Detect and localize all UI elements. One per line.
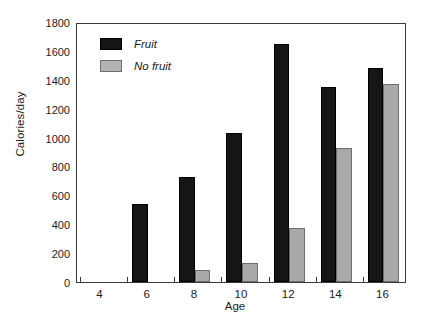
legend-label: No fruit: [134, 60, 171, 72]
x-tick-label-10: 10: [221, 288, 261, 300]
bar-fruit-age-6: [132, 204, 148, 282]
black-swatch: [100, 38, 122, 50]
y-tick-label-1600: 1600: [30, 46, 70, 58]
x-tick-mark-6: [127, 277, 128, 283]
y-tick-label-600: 600: [30, 190, 70, 202]
bar-fruit-age-10: [226, 133, 242, 282]
x-tick-label-4: 4: [80, 288, 120, 300]
y-axis-title: Calories/day: [14, 74, 26, 174]
x-tick-label-6: 6: [127, 288, 167, 300]
bar-no-fruit-age-14: [336, 148, 352, 282]
x-tick-mark-16: [363, 277, 364, 283]
y-tick-label-1200: 1200: [30, 104, 70, 116]
bar-chart-figure: Calories/day Age 02004006008001000120014…: [0, 0, 424, 323]
bar-fruit-age-8: [179, 177, 195, 282]
x-tick-label-8: 8: [174, 288, 214, 300]
gray-swatch: [100, 60, 122, 72]
y-tick-label-1800: 1800: [30, 17, 70, 29]
legend-item-no-fruit: No fruit: [100, 60, 230, 72]
chart-legend: FruitNo fruit: [100, 38, 230, 82]
x-tick-mark-10: [221, 277, 222, 283]
y-tick-label-400: 400: [30, 219, 70, 231]
y-tick-label-800: 800: [30, 161, 70, 173]
x-tick-mark-14: [316, 277, 317, 283]
bar-no-fruit-age-12: [289, 228, 305, 282]
bar-no-fruit-age-16: [383, 84, 399, 282]
x-tick-mark-12: [269, 277, 270, 283]
y-tick-label-0: 0: [30, 277, 70, 289]
y-tick-label-1400: 1400: [30, 75, 70, 87]
y-tick-label-1000: 1000: [30, 133, 70, 145]
y-tick-label-200: 200: [30, 248, 70, 260]
legend-item-fruit: Fruit: [100, 38, 230, 50]
bar-fruit-age-16: [368, 68, 384, 282]
x-tick-mark-4: [80, 277, 81, 283]
x-tick-mark-8: [174, 277, 175, 283]
bar-fruit-age-12: [274, 44, 290, 282]
bar-fruit-age-14: [321, 87, 337, 282]
legend-label: Fruit: [134, 38, 157, 50]
x-tick-label-14: 14: [315, 288, 355, 300]
x-tick-label-16: 16: [362, 288, 402, 300]
x-tick-label-12: 12: [268, 288, 308, 300]
x-axis-title: Age: [60, 300, 410, 312]
bar-no-fruit-age-10: [242, 263, 258, 282]
bar-no-fruit-age-8: [195, 270, 211, 282]
